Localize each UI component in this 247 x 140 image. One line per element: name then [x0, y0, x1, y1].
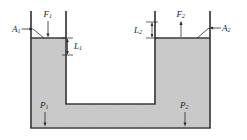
length-right-arrowhead-down [151, 34, 154, 38]
label-area-left: A1 [11, 24, 21, 34]
force-right-annotation: F2 [176, 9, 186, 37]
force-right-arrowhead [180, 21, 183, 25]
area-right-annotation: A2 [197, 23, 231, 38]
label-force-right: F2 [176, 9, 186, 19]
area-right-leader [197, 28, 209, 38]
figure-container: A1 F1 L1 [0, 0, 247, 140]
hydraulic-utube-diagram: A1 F1 L1 [0, 0, 247, 140]
area-left-leader [33, 29, 44, 38]
label-length-right: L2 [133, 25, 142, 35]
force-left-annotation: F1 [43, 9, 53, 37]
label-length-left: L1 [73, 41, 82, 51]
area-left-annotation: A1 [11, 24, 44, 38]
label-area-right: A2 [221, 23, 231, 33]
force-left-arrowhead [47, 33, 50, 37]
fluid-body [32, 38, 209, 127]
label-force-left: F1 [43, 9, 53, 19]
length-right-arrowhead-up [151, 22, 154, 26]
